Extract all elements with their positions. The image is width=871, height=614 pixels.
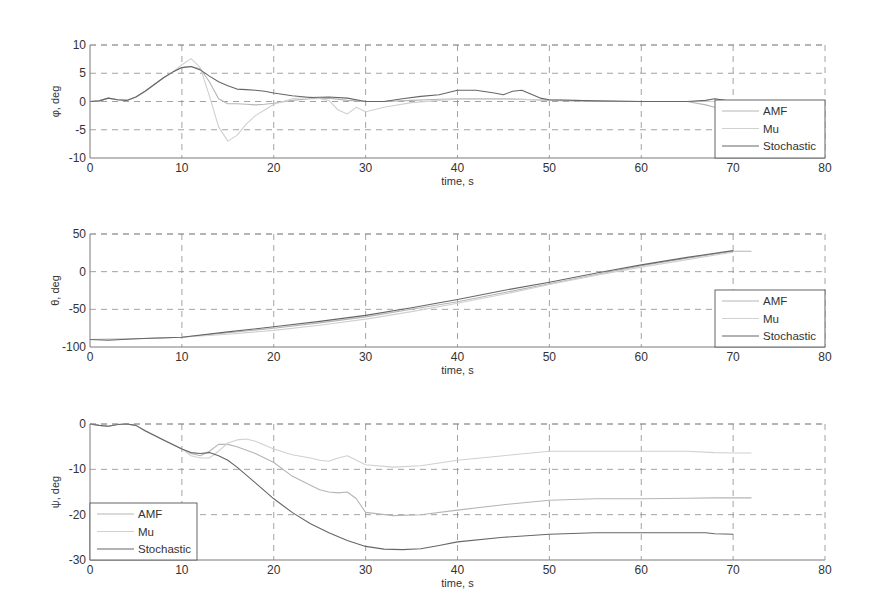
series-stochastic xyxy=(90,251,733,341)
legend-label-amf: AMF xyxy=(138,508,162,520)
legend-label-amf: AMF xyxy=(763,105,787,117)
x-tick-label: 60 xyxy=(635,563,649,577)
series-amf xyxy=(90,251,752,339)
x-tick-labels: 01020304050607080 xyxy=(87,350,832,364)
x-tick-label: 80 xyxy=(818,161,832,175)
legend-label-mu: Mu xyxy=(763,313,779,325)
x-tick-label: 30 xyxy=(359,161,373,175)
legend: AMFMuStochastic xyxy=(90,503,197,560)
x-tick-label: 30 xyxy=(359,563,373,577)
x-tick-label: 50 xyxy=(543,350,557,364)
x-axis-label: time, s xyxy=(441,577,474,589)
figure: 01020304050607080 -10-50510 time, s φ, d… xyxy=(0,0,871,614)
subplot-psi: 01020304050607080 -30-20-100 time, s ψ, … xyxy=(49,417,832,589)
y-tick-label: 50 xyxy=(73,227,87,241)
y-tick-label: -30 xyxy=(69,553,87,567)
x-tick-label: 10 xyxy=(175,350,189,364)
x-tick-label: 70 xyxy=(726,350,740,364)
x-tick-label: 80 xyxy=(818,563,832,577)
y-axis-label: φ, deg xyxy=(49,86,61,118)
x-tick-label: 70 xyxy=(726,161,740,175)
x-tick-label: 20 xyxy=(267,563,281,577)
x-tick-label: 0 xyxy=(87,563,94,577)
series-mu xyxy=(90,424,752,467)
x-tick-label: 60 xyxy=(635,161,649,175)
x-tick-label: 80 xyxy=(818,350,832,364)
y-axis-label: ψ, deg xyxy=(49,476,61,508)
y-tick-label: -10 xyxy=(69,151,87,165)
x-tick-label: 70 xyxy=(726,563,740,577)
data-series xyxy=(90,251,752,341)
grid-lines xyxy=(90,424,825,560)
y-axis-label: θ, deg xyxy=(49,275,61,306)
y-tick-label: 0 xyxy=(79,95,86,109)
x-tick-label: 60 xyxy=(635,350,649,364)
y-tick-label: 0 xyxy=(79,265,86,279)
subplot-theta: 01020304050607080 -100-50050 time, s θ, … xyxy=(49,227,832,376)
legend-label-stochastic: Stochastic xyxy=(138,543,191,555)
x-tick-label: 10 xyxy=(175,563,189,577)
x-tick-label: 50 xyxy=(543,161,557,175)
y-tick-label: -50 xyxy=(69,302,87,316)
x-tick-label: 30 xyxy=(359,350,373,364)
y-tick-label: -20 xyxy=(69,508,87,522)
y-tick-label: -100 xyxy=(62,340,86,354)
legend-label-stochastic: Stochastic xyxy=(763,140,816,152)
y-tick-label: 5 xyxy=(79,66,86,80)
legend-label-stochastic: Stochastic xyxy=(763,330,816,342)
figure-canvas: 01020304050607080 -10-50510 time, s φ, d… xyxy=(0,0,871,614)
x-tick-label: 40 xyxy=(451,350,465,364)
y-tick-labels: -30-20-100 xyxy=(69,417,87,567)
y-tick-labels: -100-50050 xyxy=(62,227,86,354)
y-tick-label: 10 xyxy=(73,38,87,52)
x-tick-labels: 01020304050607080 xyxy=(87,563,832,577)
x-tick-label: 0 xyxy=(87,161,94,175)
x-tick-labels: 01020304050607080 xyxy=(87,161,832,175)
y-tick-label: -5 xyxy=(75,123,86,137)
y-tick-label: 0 xyxy=(79,417,86,431)
x-axis-label: time, s xyxy=(441,364,474,376)
series-amf xyxy=(90,424,752,516)
legend: AMFMuStochastic xyxy=(715,290,825,347)
subplot-phi: 01020304050607080 -10-50510 time, s φ, d… xyxy=(49,38,832,187)
x-tick-label: 0 xyxy=(87,350,94,364)
legend-label-mu: Mu xyxy=(138,526,154,538)
legend: AMFMuStochastic xyxy=(715,100,825,158)
y-tick-labels: -10-50510 xyxy=(69,38,87,165)
x-axis-label: time, s xyxy=(441,175,474,187)
x-tick-label: 40 xyxy=(451,563,465,577)
x-tick-label: 10 xyxy=(175,161,189,175)
x-tick-label: 50 xyxy=(543,563,557,577)
x-tick-label: 20 xyxy=(267,350,281,364)
legend-label-amf: AMF xyxy=(763,295,787,307)
y-tick-label: -10 xyxy=(69,462,87,476)
x-tick-label: 20 xyxy=(267,161,281,175)
legend-label-mu: Mu xyxy=(763,123,779,135)
x-tick-label: 40 xyxy=(451,161,465,175)
